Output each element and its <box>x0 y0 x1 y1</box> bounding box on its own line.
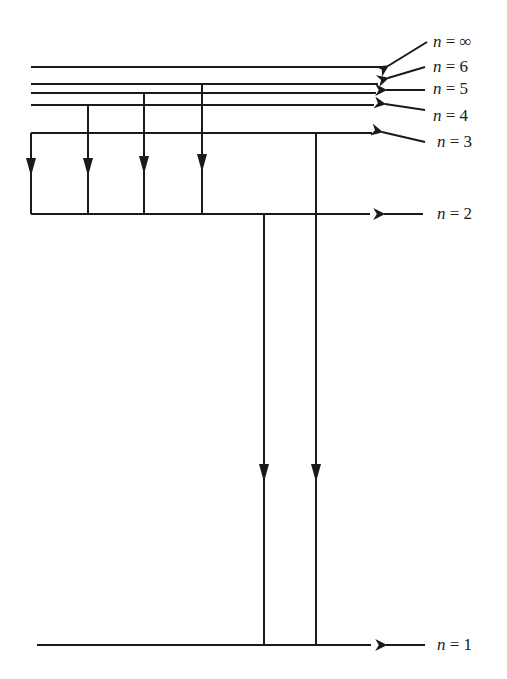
level-label-n-infinity: n = ∞ <box>433 32 472 51</box>
pointer-arrow-icon <box>385 104 425 110</box>
pointer-arrow-icon <box>388 42 427 66</box>
level-label-n-4: n = 4 <box>433 106 469 125</box>
pointer-arrow-icon <box>388 67 425 78</box>
down-arrow-icon <box>197 154 207 172</box>
level-label-n-6: n = 6 <box>433 57 468 76</box>
label-pointer-arrows <box>382 42 427 645</box>
down-arrow-icon <box>139 156 149 174</box>
level-label-n-3: n = 3 <box>437 132 472 151</box>
level-label-n-1: n = 1 <box>437 635 472 654</box>
level-labels: n = ∞n = 6n = 5n = 4n = 3n = 2n = 1 <box>433 32 472 654</box>
level-label-n-5: n = 5 <box>433 79 468 98</box>
down-arrow-icon <box>311 464 321 482</box>
down-arrow-icon <box>26 158 36 176</box>
energy-levels <box>31 67 380 645</box>
down-arrow-icon <box>259 464 269 482</box>
energy-level-diagram: n = ∞n = 6n = 5n = 4n = 3n = 2n = 1 <box>0 0 507 679</box>
level-label-n-2: n = 2 <box>437 204 472 223</box>
pointer-arrow-icon <box>382 132 425 142</box>
down-arrow-icon <box>83 158 93 176</box>
transitions <box>26 84 321 645</box>
